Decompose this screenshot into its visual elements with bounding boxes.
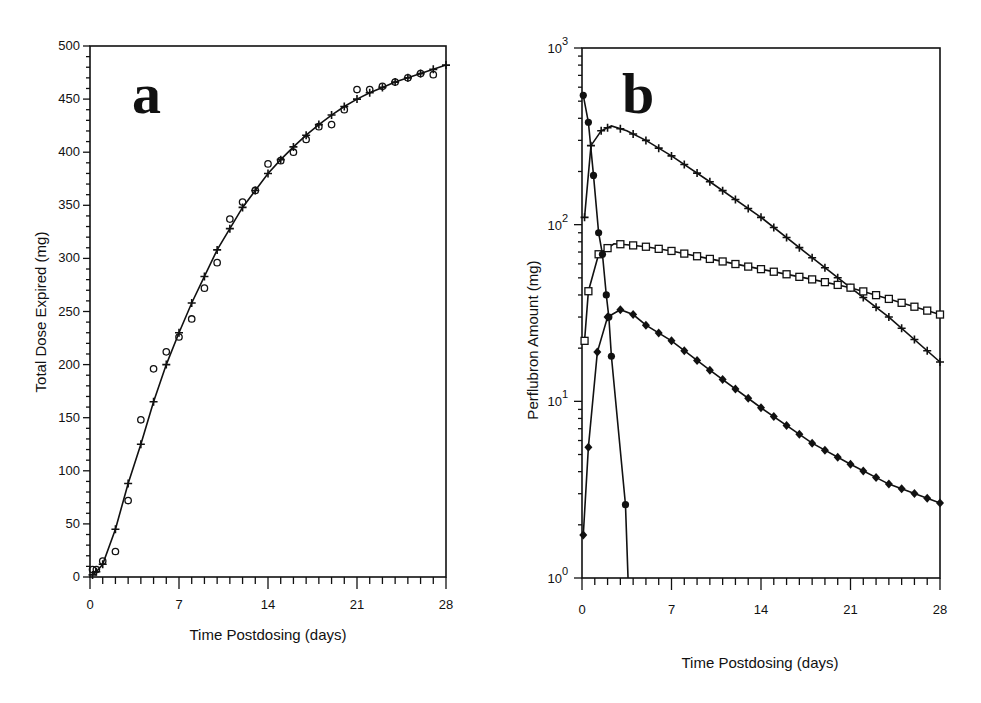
panel-b-y-tick-label: 10 [548,571,562,586]
panel-b-y-tick-exponent: 3 [562,35,568,47]
panel-b-series-line [585,126,940,362]
diamond-marker [783,421,791,430]
diamond-marker [923,494,931,503]
panel-b-y-tick-exponent: 2 [562,212,568,224]
panel-b-series-line [583,310,940,535]
square-marker [898,299,905,306]
plus-marker [642,136,650,144]
square-marker [604,245,611,252]
square-marker [630,242,637,249]
panel-b-y-tick-exponent: 1 [562,388,568,400]
diamond-marker [885,480,893,489]
panel-a-y-tick-label: 500 [58,38,80,53]
panel-b-x-tick-label: 0 [578,602,585,617]
square-marker [668,247,675,254]
plus-marker [111,525,119,533]
diamond-marker [834,453,842,462]
square-marker [617,241,624,248]
panel-a-y-tick-label: 400 [58,144,80,159]
diamond-marker [898,484,906,493]
plus-marker [353,95,361,103]
square-marker [885,295,892,302]
figure: 050100150200250300350400450500 07142128 … [0,0,981,703]
panel-b-chart: 100101102103 07142128 b Time Postdosing … [524,35,947,671]
circle-marker [125,497,131,503]
panel-a-y-tick-label: 350 [58,197,80,212]
square-marker [655,245,662,252]
diamond-marker [872,473,880,482]
panel-a-x-tick-label: 7 [175,597,182,612]
circle-marker [189,316,195,322]
plus-marker [162,361,170,369]
square-marker [770,268,777,275]
panel-b-y-tick-label: 10 [548,394,562,409]
filled-circle-marker [595,229,602,236]
square-marker [783,271,790,278]
square-marker [585,288,592,295]
diamond-marker [808,439,816,448]
plus-marker [188,299,196,307]
square-marker [937,311,944,318]
panel-a-y-axis: 050100150200250300350400450500 [58,38,90,584]
panel-b-y-tick-label: 10 [548,41,562,56]
diamond-marker [584,443,592,452]
diamond-marker [744,394,752,403]
diamond-marker [757,403,765,412]
panel-b-x-axis-title: Time Postdosing (days) [681,654,838,671]
panel-b-x-tick-label: 28 [933,602,947,617]
plus-marker [442,61,450,69]
square-marker [681,250,688,257]
panel-b-y-axis: 100101102103 [548,35,582,586]
panel-a-y-tick-label: 100 [58,463,80,478]
diamond-marker [910,489,918,498]
panel-b-x-axis: 07142128 [578,578,947,617]
plus-marker [124,480,132,488]
panel-b-y-tick-exponent: 0 [562,565,568,577]
filled-circle-marker [608,353,615,360]
plus-marker [213,246,221,254]
square-marker [847,284,854,291]
plus-marker [226,225,234,233]
diamond-marker [655,328,663,337]
panel-a-chart: 050100150200250300350400450500 07142128 … [32,38,453,643]
plus-marker [150,398,158,406]
circle-marker [214,259,220,265]
plus-marker [200,272,208,280]
square-marker [911,303,918,310]
circle-marker [201,285,207,291]
panel-b-label: b [622,61,654,126]
panel-a-x-axis: 07142128 [86,577,453,612]
filled-circle-marker [605,313,612,320]
square-marker [860,288,867,295]
diamond-marker [821,446,829,455]
panel-a-x-tick-label: 14 [261,597,275,612]
square-marker [873,292,880,299]
panel-a-x-tick-label: 21 [350,597,364,612]
diamond-marker [593,348,601,357]
panel-a-label: a [132,61,161,126]
filled-circle-marker [599,251,606,258]
square-marker [719,258,726,265]
square-marker [745,263,752,270]
diamond-marker [770,412,778,421]
plus-marker [655,144,663,152]
circle-marker [112,548,118,554]
panel-b-y-tick-label: 10 [548,218,562,233]
panel-a-x-tick-label: 28 [439,597,453,612]
diamond-marker [859,466,867,475]
square-marker [581,337,588,344]
circle-marker [150,366,156,372]
panel-b-series-line [583,95,628,578]
circle-marker [163,349,169,355]
panel-a-y-tick-label: 150 [58,410,80,425]
square-marker [758,266,765,273]
plus-marker [629,130,637,138]
diamond-marker [847,460,855,469]
panel-b-series-line [585,244,940,341]
panel-b-x-tick-label: 7 [668,602,675,617]
filled-circle-marker [585,119,592,126]
diamond-marker [579,531,587,540]
panel-a-y-tick-label: 0 [73,569,80,584]
panel-b-series [579,92,944,578]
diamond-marker [795,430,803,439]
